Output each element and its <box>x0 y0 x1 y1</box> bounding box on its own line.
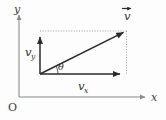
resultant-vector-label: v <box>124 9 131 23</box>
vectors-group <box>40 32 124 74</box>
y-component-label-subscript: y <box>30 52 36 61</box>
x-component-label-group: v x <box>78 79 89 95</box>
x-component-label-subscript: x <box>84 86 89 95</box>
angle-label: θ <box>58 61 64 72</box>
y-component-label-group: v y <box>25 45 36 61</box>
resultant-vector-v <box>40 32 124 74</box>
x-axis-label: x <box>151 91 158 104</box>
origin-label: O <box>8 101 17 114</box>
y-axis-label: y <box>13 3 21 16</box>
vector-diagram-canvas: y x O v v x v y θ <box>0 0 166 120</box>
vector-diagram-figure: y x O v v x v y θ <box>0 0 166 120</box>
